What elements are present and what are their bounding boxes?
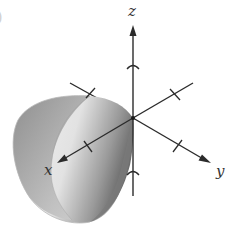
edge-fragment: ) [0,9,2,25]
y-axis-label: y [215,162,225,180]
x-axis-label: x [44,161,53,179]
paraboloid-figure: ) [0,0,228,241]
y-axis-line [133,118,205,160]
origin-point [131,116,135,120]
z-axis-label: z [127,2,136,20]
z-arrow-icon [130,25,137,36]
paraboloid-surface [13,96,133,223]
y-arrow-icon [199,155,212,164]
